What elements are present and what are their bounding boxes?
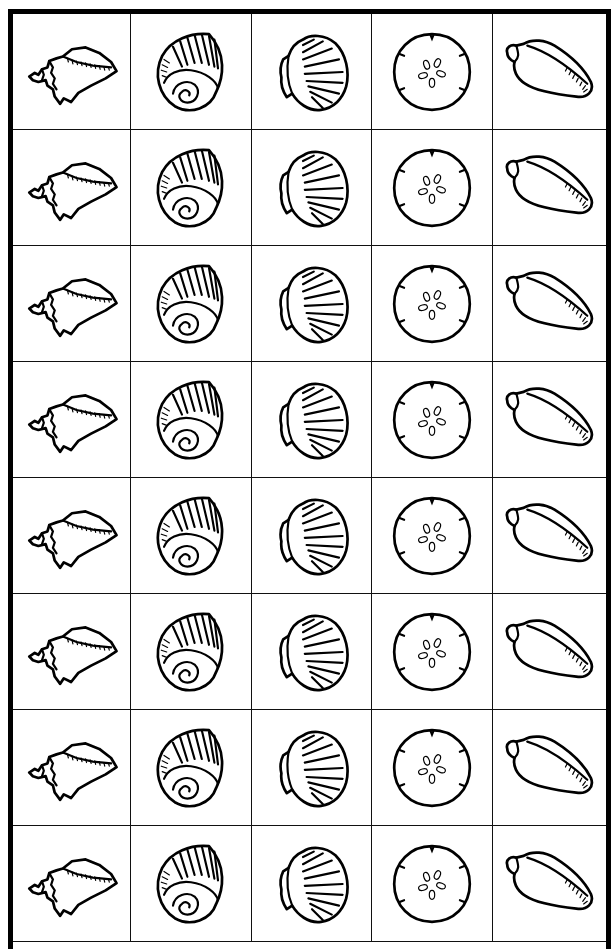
grid-cell	[252, 710, 372, 826]
scallop-shell-icon	[262, 491, 362, 581]
sand-dollar-icon	[382, 375, 482, 465]
grid-cell	[13, 594, 131, 710]
grid-cell	[372, 478, 493, 594]
conch-shell-icon	[22, 839, 122, 929]
moon-snail-shell-icon	[141, 607, 241, 697]
moon-snail-shell-icon	[141, 839, 241, 929]
sand-dollar-icon	[382, 839, 482, 929]
conch-shell-icon	[22, 491, 122, 581]
grid-cell	[252, 478, 372, 594]
grid-cell	[493, 826, 606, 942]
grid-cell	[13, 14, 131, 130]
sand-dollar-icon	[382, 259, 482, 349]
grid-cell	[252, 826, 372, 942]
conch-shell-icon	[22, 723, 122, 813]
grid-cell	[252, 246, 372, 362]
grid-cell	[13, 246, 131, 362]
cone-shell-icon	[500, 143, 600, 233]
grid-cell	[131, 710, 252, 826]
grid-cell	[13, 826, 131, 942]
moon-snail-shell-icon	[141, 143, 241, 233]
grid-cell	[131, 246, 252, 362]
conch-shell-icon	[22, 375, 122, 465]
moon-snail-shell-icon	[141, 491, 241, 581]
grid-cell	[372, 710, 493, 826]
sand-dollar-icon	[382, 607, 482, 697]
grid-cell	[493, 710, 606, 826]
conch-shell-icon	[22, 259, 122, 349]
cone-shell-icon	[500, 27, 600, 117]
conch-shell-icon	[22, 27, 122, 117]
grid-cell	[493, 362, 606, 478]
sand-dollar-icon	[382, 27, 482, 117]
cone-shell-icon	[500, 839, 600, 929]
scallop-shell-icon	[262, 259, 362, 349]
scallop-shell-icon	[262, 839, 362, 929]
moon-snail-shell-icon	[141, 27, 241, 117]
grid-cell	[13, 362, 131, 478]
conch-shell-icon	[22, 143, 122, 233]
cone-shell-icon	[500, 723, 600, 813]
grid-cell	[493, 246, 606, 362]
cone-shell-icon	[500, 375, 600, 465]
grid-cell	[372, 130, 493, 246]
grid-cell	[372, 594, 493, 710]
moon-snail-shell-icon	[141, 723, 241, 813]
sand-dollar-icon	[382, 143, 482, 233]
scallop-shell-icon	[262, 723, 362, 813]
grid-cell	[252, 362, 372, 478]
sand-dollar-icon	[382, 491, 482, 581]
scallop-shell-icon	[262, 607, 362, 697]
grid-cell	[131, 478, 252, 594]
grid-cell	[372, 826, 493, 942]
grid-cell	[131, 362, 252, 478]
sand-dollar-icon	[382, 723, 482, 813]
scallop-shell-icon	[262, 143, 362, 233]
moon-snail-shell-icon	[141, 375, 241, 465]
grid-cell	[252, 594, 372, 710]
grid-cell	[252, 14, 372, 130]
cone-shell-icon	[500, 607, 600, 697]
scallop-shell-icon	[262, 375, 362, 465]
grid-cell	[131, 594, 252, 710]
grid-cell	[372, 14, 493, 130]
grid-cell	[372, 246, 493, 362]
moon-snail-shell-icon	[141, 259, 241, 349]
grid-cell	[13, 710, 131, 826]
grid-cell	[131, 826, 252, 942]
grid-cell	[493, 594, 606, 710]
grid-cell	[372, 362, 493, 478]
conch-shell-icon	[22, 607, 122, 697]
grid-cell	[252, 130, 372, 246]
grid-cell	[131, 14, 252, 130]
grid-cell	[493, 130, 606, 246]
grid-cell	[131, 130, 252, 246]
grid-cell	[13, 478, 131, 594]
scallop-shell-icon	[262, 27, 362, 117]
seashell-card-grid	[8, 9, 611, 949]
grid-cell	[493, 478, 606, 594]
grid-cell	[493, 14, 606, 130]
grid-cell	[13, 130, 131, 246]
cone-shell-icon	[500, 491, 600, 581]
cone-shell-icon	[500, 259, 600, 349]
